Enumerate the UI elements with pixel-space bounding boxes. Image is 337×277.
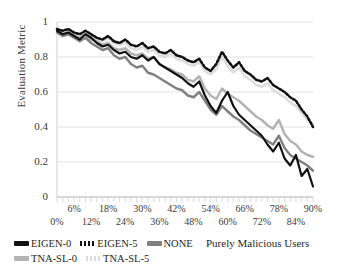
legend-item-eigen-5[interactable]: EIGEN-5	[80, 238, 137, 249]
x-tick-label: 72%	[248, 216, 276, 227]
legend-label-eigen-0: EIGEN-0	[31, 238, 71, 249]
series-line-eigen-0	[57, 31, 313, 187]
legend-label-none: NONE	[164, 238, 193, 249]
legend-swatch-tna-sl-5	[86, 256, 101, 261]
x-tick-label: 6%	[60, 203, 88, 214]
y-tick-label: 0.6	[18, 85, 48, 97]
legend-row-2: TNA-SL-0 TNA-SL-5	[14, 251, 334, 266]
legend-label-tna-sl-5: TNA-SL-5	[103, 253, 149, 264]
x-tick-label: 36%	[145, 216, 173, 227]
x-tick-label: 30%	[128, 203, 156, 214]
x-tick-label: 54%	[197, 203, 225, 214]
y-tick-label: 0.2	[18, 155, 48, 167]
x-tick-label: 0%	[43, 216, 71, 227]
legend-swatch-none	[147, 241, 162, 246]
y-tick-label: 1	[18, 15, 48, 27]
x-tick-label: 90%	[299, 203, 327, 214]
legend-swatch-eigen-0	[14, 241, 29, 246]
y-tick-label: 0.8	[18, 50, 48, 62]
x-tick-label: 66%	[231, 203, 259, 214]
x-tick-label: 12%	[77, 216, 105, 227]
legend-item-eigen-0[interactable]: EIGEN-0	[14, 238, 71, 249]
legend-item-tna-sl-0[interactable]: TNA-SL-0	[14, 253, 77, 264]
x-tick-label: 42%	[162, 203, 190, 214]
y-tick-label: 0	[18, 190, 48, 202]
legend-item-none[interactable]: NONE	[147, 238, 193, 249]
x-tick-label: 84%	[282, 216, 310, 227]
legend-label-tna-sl-0: TNA-SL-0	[31, 253, 77, 264]
legend-swatch-eigen-5	[80, 241, 95, 246]
legend-item-tna-sl-5[interactable]: TNA-SL-5	[86, 253, 149, 264]
x-tick-label: 78%	[265, 203, 293, 214]
x-tick-label: 24%	[111, 216, 139, 227]
legend-label-eigen-5: EIGEN-5	[97, 238, 137, 249]
legend-swatch-tna-sl-0	[14, 256, 29, 261]
chart-figure: Evaluation Metric 00.20.40.60.81 0%12%24…	[0, 0, 337, 277]
x-axis-title: Purely Malicious Users	[206, 237, 309, 249]
y-tick-label: 0.4	[18, 120, 48, 132]
x-tick-label: 18%	[94, 203, 122, 214]
x-tick-label: 48%	[180, 216, 208, 227]
x-tick-label: 60%	[214, 216, 242, 227]
